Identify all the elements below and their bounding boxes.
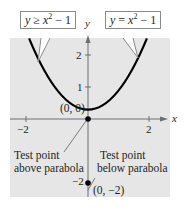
graph-canvas: x y −2 2 2 1 −2 (0, 0) (0, −2) (0, 0, 189, 209)
test-point-neg2 (85, 180, 91, 186)
annotation-below-line2: below parabola (97, 162, 168, 175)
annotation-above-line2: above parabola (14, 162, 84, 175)
test-point-origin (85, 116, 91, 122)
callout-var-y: y (110, 13, 115, 27)
y-tick-label-2: 2 (76, 49, 82, 61)
x-tick-label-2: 2 (146, 123, 152, 135)
callout-equation: y = x2 − 1 (105, 11, 161, 29)
callout-rest: − 1 (137, 13, 156, 27)
callout-rest: − 1 (52, 13, 71, 27)
point-label-neg2: (0, −2) (93, 184, 125, 197)
y-tick-label-neg2: −2 (72, 175, 84, 187)
x-axis-label: x (171, 112, 177, 124)
callout-operator: ≥ (33, 13, 40, 27)
callout-inequality: y ≥ x2 − 1 (20, 11, 76, 29)
callout-var-y: y (25, 13, 30, 27)
annotation-above-line1: Test point (14, 149, 60, 162)
point-label-origin: (0, 0) (60, 102, 85, 115)
annotation-below-line1: Test point (100, 149, 146, 162)
y-axis-label: y (84, 17, 90, 29)
x-tick-label-neg2: −2 (17, 123, 29, 135)
y-tick-label-1: 1 (77, 81, 83, 93)
callout-operator: = (118, 13, 125, 27)
inequality-graph: x y −2 2 2 1 −2 (0, 0) (0, −2) y ≥ x2 − … (0, 0, 189, 209)
